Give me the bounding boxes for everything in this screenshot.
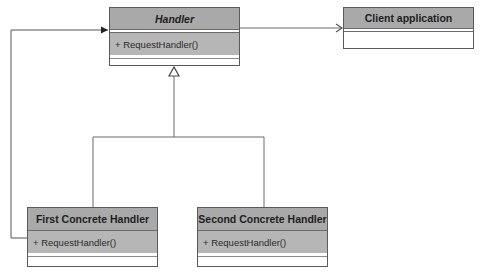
class-name: Handler (110, 8, 239, 30)
class-name: First Concrete Handler (28, 208, 157, 231)
method-request-handler: + RequestHandler() (28, 231, 157, 253)
hollow-triangle-icon (169, 67, 179, 76)
class-name: Client application (344, 8, 473, 29)
class-second-concrete-handler[interactable]: Second Concrete Handler + RequestHandler… (197, 207, 328, 267)
method-request-handler: + RequestHandler() (110, 33, 239, 55)
class-name: Second Concrete Handler (198, 208, 327, 231)
class-client-application[interactable]: Client application (343, 7, 474, 49)
empty-compartment (198, 257, 327, 266)
empty-compartment (28, 257, 157, 266)
empty-compartment (110, 59, 239, 65)
empty-compartment (344, 32, 473, 47)
class-handler[interactable]: Handler + RequestHandler() (109, 7, 240, 66)
class-first-concrete-handler[interactable]: First Concrete Handler + RequestHandler(… (27, 207, 158, 267)
method-request-handler: + RequestHandler() (198, 231, 327, 253)
inheritance-branches (93, 137, 264, 207)
filled-arrow-icon (101, 27, 108, 34)
